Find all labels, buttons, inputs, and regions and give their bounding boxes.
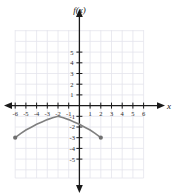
y-tick-label: -1 bbox=[70, 113, 75, 120]
x-tick-label: 6 bbox=[142, 110, 146, 117]
y-tick-label: -3 bbox=[70, 134, 75, 141]
x-tick-label: -6 bbox=[12, 110, 18, 117]
y-tick-label: 1 bbox=[70, 91, 73, 98]
graph-figure: -6 -5 -4 -3 -2 -1 1 2 3 4 5 6 5 4 3 2 1 … bbox=[0, 0, 175, 193]
x-tick-label: 5 bbox=[131, 110, 134, 117]
coordinate-plane-svg: -6 -5 -4 -3 -2 -1 1 2 3 4 5 6 5 4 3 2 1 … bbox=[0, 0, 175, 193]
x-axis-arrow-left bbox=[4, 102, 12, 109]
x-tick-label: -5 bbox=[23, 110, 28, 117]
x-tick-label: 3 bbox=[110, 110, 113, 117]
y-tick-label: 2 bbox=[70, 81, 73, 88]
x-tick-label: -3 bbox=[45, 110, 50, 117]
x-tick-label: -2 bbox=[55, 110, 60, 117]
y-tick-label: -5 bbox=[70, 156, 75, 163]
x-axis bbox=[4, 102, 165, 109]
y-axis bbox=[76, 9, 83, 193]
y-tick-label: -2 bbox=[70, 123, 75, 130]
x-tick-label: 4 bbox=[121, 110, 125, 117]
curve-endpoint-left bbox=[13, 136, 17, 140]
y-tick-label: -4 bbox=[70, 145, 76, 152]
y-tick-label: 5 bbox=[70, 49, 73, 56]
x-axis-arrow-right bbox=[157, 102, 165, 109]
x-tick-label: 2 bbox=[99, 110, 102, 117]
x-tick-label: -4 bbox=[34, 110, 40, 117]
curve-endpoint-right bbox=[99, 136, 103, 140]
x-axis-label: x bbox=[166, 101, 171, 111]
x-tick-label: 1 bbox=[88, 110, 91, 117]
function-label: f(x) bbox=[73, 5, 86, 15]
y-tick-label: 3 bbox=[70, 70, 73, 77]
y-axis-arrow-bottom bbox=[76, 185, 83, 193]
